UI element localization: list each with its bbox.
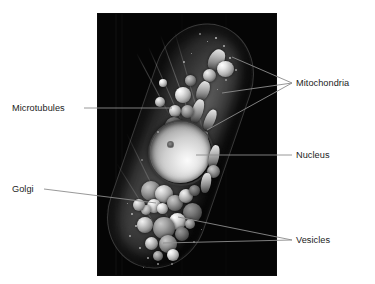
vesicle [169, 105, 181, 117]
vesicle [185, 75, 196, 86]
vesicle [175, 87, 191, 103]
label-microtubules-text: Microtubules [12, 103, 65, 113]
nuclear-pore [167, 141, 174, 148]
micrograph-panel [97, 13, 277, 276]
vesicle [159, 79, 167, 87]
label-mitochondria: Mitochondria [296, 78, 349, 89]
label-golgi: Golgi [12, 184, 34, 195]
label-nucleus-text: Nucleus [296, 150, 330, 160]
vesicle [167, 249, 179, 261]
label-nucleus: Nucleus [296, 150, 330, 161]
vesicle [175, 227, 189, 241]
label-vesicles: Vesicles [296, 235, 330, 246]
vesicle [181, 105, 194, 118]
label-microtubules: Microtubules [12, 103, 65, 114]
vesicle [133, 199, 145, 211]
label-vesicles-text: Vesicles [296, 235, 330, 245]
figure-container: Mitochondria Microtubules Nucleus Golgi … [0, 0, 375, 284]
label-golgi-text: Golgi [12, 184, 34, 194]
vesicle [137, 217, 153, 233]
vesicle [185, 219, 195, 229]
label-mitochondria-text: Mitochondria [296, 78, 349, 88]
vesicle [153, 251, 163, 261]
cell-body [97, 13, 277, 276]
mitochondrion [217, 61, 234, 77]
vesicle [155, 97, 165, 107]
vesicle [189, 185, 200, 196]
vesicle [145, 237, 158, 250]
